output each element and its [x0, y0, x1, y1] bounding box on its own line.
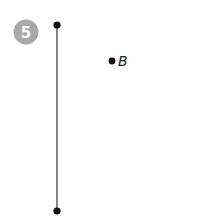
step-number: 5 — [21, 24, 31, 42]
segment-bottom-endpoint — [53, 207, 60, 214]
point-b: B — [109, 53, 128, 69]
diagram-canvas: 5 B — [0, 0, 199, 223]
point-b-dot — [109, 58, 116, 65]
point-b-label: B — [118, 53, 128, 69]
step-badge: 5 — [14, 20, 39, 45]
segment-top-endpoint — [53, 21, 60, 28]
